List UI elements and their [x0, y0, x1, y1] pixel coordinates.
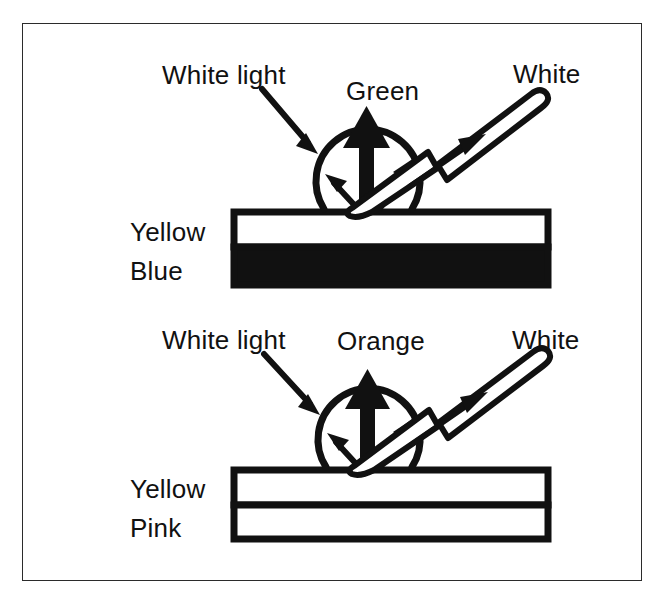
bottom-layer-pink	[234, 505, 548, 539]
label-layer-yellow-bottom: Yellow	[130, 474, 205, 505]
top-hollow-reflection-arrow	[347, 90, 548, 217]
bottom-layer-stack	[234, 470, 548, 539]
figure-root: White light Green White Yellow Blue Whit…	[0, 0, 664, 602]
label-white-light-bottom: White light	[162, 325, 286, 356]
diagram-graphics	[0, 0, 664, 602]
label-layer-blue: Blue	[130, 256, 183, 287]
top-incoming-light-arrow	[262, 89, 318, 154]
label-orange: Orange	[337, 326, 425, 357]
bottom-internal-left-arrow	[327, 433, 359, 467]
top-layer-stack	[234, 212, 548, 285]
label-white-light-top: White light	[162, 60, 286, 91]
bottom-incoming-light-arrow	[264, 354, 320, 415]
bottom-layer-yellow	[234, 470, 548, 505]
bottom-hollow-reflection-arrow	[349, 348, 550, 475]
label-white-bottom: White	[512, 325, 579, 356]
top-layer-blue	[234, 247, 548, 285]
top-layer-yellow	[234, 212, 548, 247]
bottom-panel-graphics	[234, 348, 550, 539]
label-layer-yellow-top: Yellow	[130, 217, 205, 248]
label-layer-pink: Pink	[130, 513, 181, 544]
label-white-top: White	[513, 59, 580, 90]
top-panel-graphics	[234, 89, 548, 285]
label-green: Green	[346, 76, 419, 107]
